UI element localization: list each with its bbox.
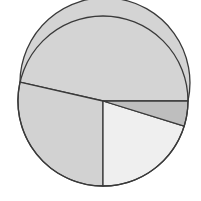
pie-slice-1[interactable] xyxy=(20,0,190,101)
pie-slice-2[interactable] xyxy=(18,82,103,186)
pie-chart-canvas xyxy=(0,0,201,201)
pie-chart-figure xyxy=(0,0,201,201)
pie-slices xyxy=(18,0,190,186)
